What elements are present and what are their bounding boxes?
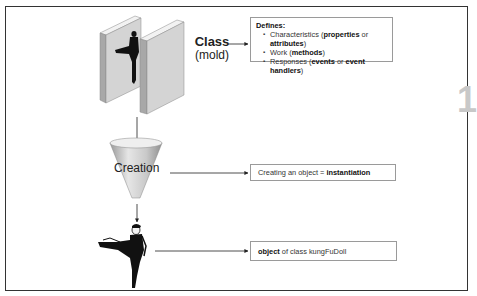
kungfu-doll-icon [98, 224, 146, 288]
instantiation-prefix: Creating an object = [258, 168, 326, 177]
instantiation-box: Creating an object = instantiation [250, 164, 396, 181]
defines-item-characteristics: Characteristics (properties or attribute… [264, 30, 387, 48]
defines-item-responses: Responses (events or event handlers) [264, 57, 387, 75]
creation-label: Creation [114, 161, 159, 175]
object-suffix: of class kungFuDoll [280, 247, 347, 256]
defines-heading: Defines: [256, 21, 285, 30]
object-term: object [258, 247, 280, 256]
class-title: Class [192, 35, 232, 49]
instantiation-term: instantiation [326, 168, 370, 177]
defines-box: Defines: Characteristics (properties or … [250, 17, 393, 62]
object-box: object of class kungFuDoll [250, 241, 397, 261]
class-label: Class (mold) [192, 35, 232, 62]
class-subtitle: (mold) [192, 49, 232, 62]
mold-right-block [140, 20, 184, 114]
defines-item-work: Work (methods) [264, 48, 387, 57]
defines-list: Characteristics (properties or attribute… [256, 30, 387, 75]
